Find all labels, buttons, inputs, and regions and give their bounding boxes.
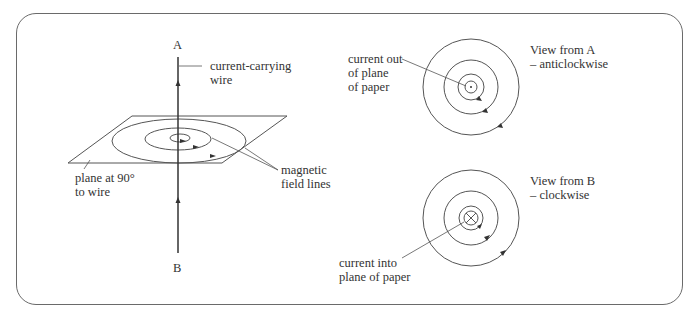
current-wire xyxy=(176,57,181,253)
wire-label-line2: wire xyxy=(210,73,232,87)
plane-label-line2: to wire xyxy=(75,185,110,199)
current-out-label-line2: of plane xyxy=(348,66,389,80)
current-out-dot-icon xyxy=(470,86,472,88)
view-b-caption-line2: – clockwise xyxy=(530,188,589,202)
plane-label-leader xyxy=(84,160,90,169)
view-from-b-arrows xyxy=(477,224,506,256)
point-a-label: A xyxy=(173,38,182,52)
arrow-icon xyxy=(180,139,186,143)
current-arrow-icon xyxy=(176,197,181,203)
plane-field-lines xyxy=(112,119,246,163)
current-out-label-line1: current out xyxy=(348,52,403,66)
current-arrow-icon xyxy=(176,80,181,86)
field-line-outer xyxy=(112,119,246,163)
view-a-caption-line1: View from A xyxy=(530,43,595,57)
current-in-cross-icon xyxy=(466,213,476,223)
field-label-line1: magnetic xyxy=(281,163,327,177)
wire-label-line1: current-carrying xyxy=(210,59,291,73)
field-label-line2: field lines xyxy=(281,177,331,191)
view-a-caption-line2: – anticlockwise xyxy=(530,57,608,71)
view-b-caption-line1: View from B xyxy=(530,174,595,188)
arrow-icon xyxy=(210,154,216,158)
point-b-label: B xyxy=(173,261,181,275)
current-out-leader xyxy=(402,59,466,86)
plane-label-line1: plane at 90° xyxy=(75,171,135,185)
current-in-label-line2: plane of paper xyxy=(339,270,411,284)
current-in-label-line1: current into xyxy=(339,256,397,270)
current-out-label-line3: of paper xyxy=(348,80,389,94)
field-label-leaders xyxy=(212,138,278,170)
